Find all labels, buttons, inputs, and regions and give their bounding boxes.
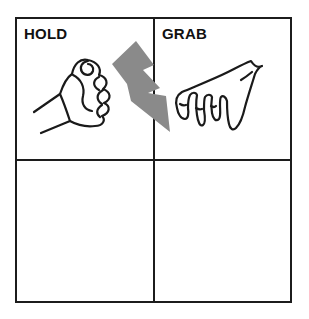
cell-empty-bottom-left: [17, 161, 155, 301]
cell-grab: GRAB: [155, 19, 290, 161]
quadrant-grid: HOLD GRAB: [15, 17, 292, 303]
grab-label: GRAB: [162, 26, 207, 41]
hold-label: HOLD: [24, 26, 67, 41]
cell-empty-bottom-right: [155, 161, 290, 301]
figure-canvas: HOLD GRAB: [0, 0, 309, 319]
cell-hold: HOLD: [17, 19, 155, 161]
